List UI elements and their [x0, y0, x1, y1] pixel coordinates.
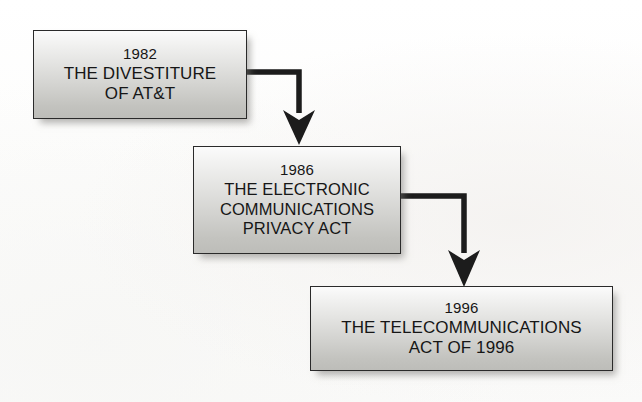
arrow-1982-to-1986-head [283, 110, 315, 145]
node-2-line-3: PRIVACY ACT [243, 219, 352, 238]
node-2-line-2: COMMUNICATIONS [220, 200, 374, 219]
arrow-1982-to-1986-line [246, 72, 299, 113]
flowchart-canvas: 1982 THE DIVESTITURE OF AT&T 1986 THE EL… [0, 0, 642, 402]
node-2-line-1: THE ELECTRONIC [224, 180, 369, 199]
arrow-1986-to-1996-line [400, 196, 464, 253]
node-2-year: 1986 [280, 161, 314, 179]
node-1-line-1: THE DIVESTITURE [64, 64, 217, 84]
node-1-line-2: OF AT&T [105, 84, 175, 104]
node-3-line-2: ACT OF 1996 [409, 338, 515, 358]
arrow-1982-to-1986 [246, 72, 315, 145]
arrow-1986-to-1996-head [448, 250, 480, 287]
arrow-1986-to-1996 [400, 196, 480, 287]
node-electronic-communications-privacy-act[interactable]: 1986 THE ELECTRONIC COMMUNICATIONS PRIVA… [193, 146, 401, 254]
node-telecommunications-act-of-1996[interactable]: 1996 THE TELECOMMUNICATIONS ACT OF 1996 [310, 286, 613, 371]
node-3-year: 1996 [445, 299, 479, 317]
node-3-line-1: THE TELECOMMUNICATIONS [341, 318, 582, 338]
node-divestiture-of-att[interactable]: 1982 THE DIVESTITURE OF AT&T [33, 30, 247, 119]
node-1-year: 1982 [123, 45, 157, 63]
